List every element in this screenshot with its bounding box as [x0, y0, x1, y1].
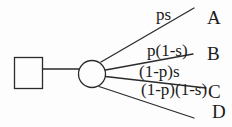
branch-label-1-p-1-s: (1-p)(1-s)	[141, 81, 207, 98]
outcome-label-a: A	[207, 8, 221, 27]
decision-node-square-icon	[15, 58, 43, 89]
branch-label-1-p-s: (1-p)s	[139, 63, 180, 80]
branch-label-ps: ps	[156, 6, 171, 23]
outcome-label-b: B	[207, 44, 220, 63]
branch-label-p-1-s: p(1-s)	[147, 42, 188, 59]
tree-diagram-canvas	[0, 0, 232, 127]
outcome-label-c: C	[208, 82, 221, 101]
probability-tree-figure: ps p(1-s) (1-p)s (1-p)(1-s) A B C D	[0, 0, 232, 127]
outcome-label-d: D	[212, 102, 226, 121]
chance-node-circle-icon	[79, 61, 106, 88]
